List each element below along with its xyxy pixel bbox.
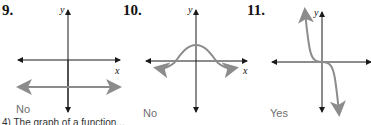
- bell-curve-right: [196, 45, 235, 68]
- answer-10: No: [143, 107, 157, 119]
- graph-10: x y: [146, 4, 248, 112]
- y-axis-label: y: [187, 4, 193, 15]
- bell-curve-left: [157, 45, 196, 68]
- footer-partial-text: 4) The graph of a function...: [2, 117, 125, 125]
- graph-9: x y: [18, 4, 120, 112]
- x-axis-label: x: [114, 65, 120, 76]
- answer-11: Yes: [270, 107, 288, 119]
- x-axis-label: x: [242, 65, 248, 76]
- cubic-curve-lower: [322, 62, 339, 113]
- cubic-curve-upper: [305, 11, 322, 62]
- problem-number-9: 9.: [2, 2, 13, 19]
- y-axis-label: y: [59, 4, 65, 15]
- problem-number-11: 11.: [247, 2, 265, 19]
- answer-9: No: [16, 103, 30, 115]
- y-axis-label: y: [313, 7, 319, 18]
- graphs-canvas: x y x y y: [0, 0, 371, 125]
- graph-11: y: [272, 7, 371, 113]
- problem-number-10: 10.: [123, 2, 142, 19]
